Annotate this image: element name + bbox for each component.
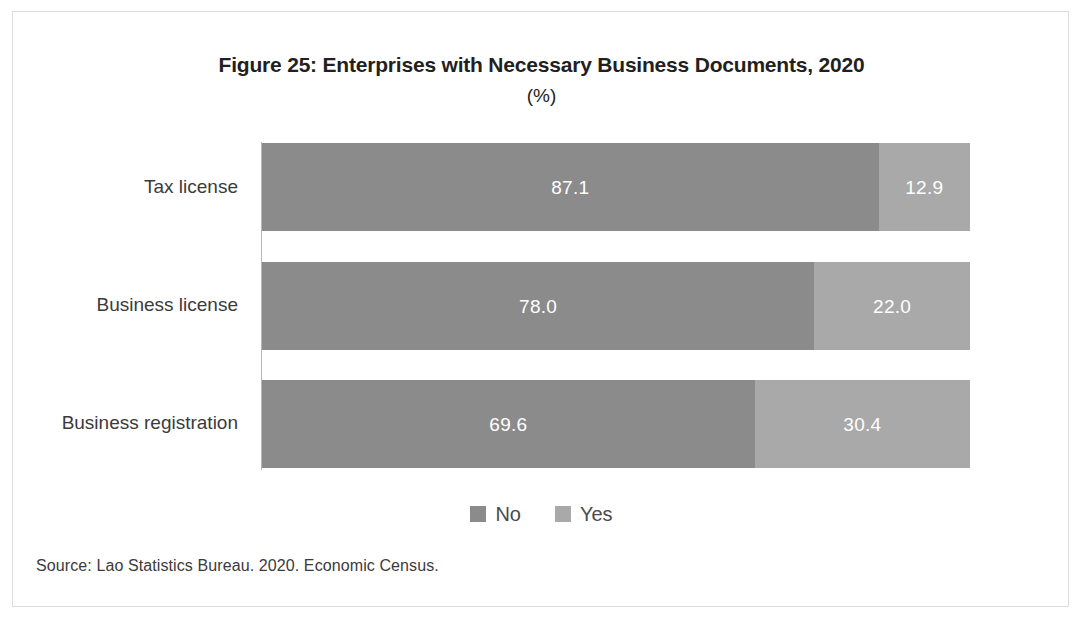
bar-segment-yes: 22.0 — [814, 262, 970, 350]
bar-value-label-no: 69.6 — [489, 415, 527, 434]
legend-item-no: No — [470, 504, 521, 524]
figure-subtitle: (%) — [0, 81, 1083, 111]
bar-row-tax-license: 87.1 12.9 — [262, 143, 970, 231]
bar-row-business-registration: 69.6 30.4 — [262, 380, 970, 468]
bar-segment-yes: 30.4 — [755, 380, 970, 468]
category-axis-labels: Tax license Business license Business re… — [0, 142, 250, 470]
bar-segment-no: 87.1 — [262, 143, 879, 231]
chart-legend: No Yes — [0, 504, 1083, 524]
figure-container: Figure 25: Enterprises with Necessary Bu… — [0, 0, 1083, 622]
source-note: Source: Lao Statistics Bureau. 2020. Eco… — [36, 556, 439, 576]
bar-segment-no: 69.6 — [262, 380, 755, 468]
bar-value-label-no: 78.0 — [519, 297, 557, 316]
legend-item-yes: Yes — [555, 504, 613, 524]
legend-label-yes: Yes — [580, 504, 613, 524]
bar-value-label-yes: 30.4 — [843, 415, 881, 434]
legend-label-no: No — [495, 504, 521, 524]
bar-value-label-yes: 12.9 — [905, 178, 943, 197]
category-label-tax-license: Tax license — [0, 176, 238, 198]
category-label-business-registration: Business registration — [0, 412, 238, 434]
legend-swatch-no-icon — [470, 506, 486, 522]
bar-row-business-license: 78.0 22.0 — [262, 262, 970, 350]
bar-value-label-no: 87.1 — [551, 178, 589, 197]
plot-area: 87.1 12.9 78.0 22.0 69.6 30.4 — [262, 142, 970, 470]
figure-title-block: Figure 25: Enterprises with Necessary Bu… — [0, 52, 1083, 111]
legend-swatch-yes-icon — [555, 506, 571, 522]
bar-value-label-yes: 22.0 — [873, 297, 911, 316]
bar-segment-yes: 12.9 — [879, 143, 970, 231]
bar-segment-no: 78.0 — [262, 262, 814, 350]
category-label-business-license: Business license — [0, 294, 238, 316]
figure-title: Figure 25: Enterprises with Necessary Bu… — [0, 52, 1083, 78]
